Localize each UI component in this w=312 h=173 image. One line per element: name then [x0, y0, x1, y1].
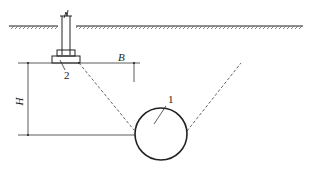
dimension-b: [18, 62, 140, 82]
dimension-b-label: B: [118, 52, 125, 63]
tunnel-label: 1: [168, 94, 174, 105]
dimension-h: [18, 63, 135, 136]
footing-label: 2: [64, 70, 70, 81]
influence-lines: [79, 63, 241, 131]
break-mark-icon: [64, 10, 68, 18]
footing: [52, 50, 80, 63]
column: [60, 10, 72, 55]
dimension-h-label: H: [14, 98, 25, 106]
ground-surface: [9, 26, 303, 29]
tunnel-circle: [135, 106, 187, 160]
diagram-canvas: [0, 0, 312, 173]
